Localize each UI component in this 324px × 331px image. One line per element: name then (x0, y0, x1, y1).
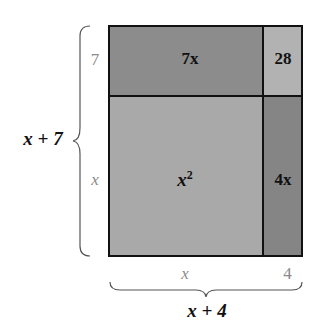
left-total-label: x + 7 (14, 128, 72, 150)
left-segment-x: x (86, 170, 104, 190)
label-28-text: 28 (275, 49, 292, 68)
label-x-squared: x2 (155, 168, 215, 191)
bottom-brace-icon (110, 282, 302, 297)
label-4x-text: 4x (275, 170, 292, 189)
bottom-total-label: x + 4 (175, 300, 239, 322)
label-4x: 4x (264, 170, 302, 190)
bottom-segment-x: x (170, 264, 200, 284)
left-segment-7-text: 7 (91, 50, 100, 69)
left-total-text: x + 7 (23, 128, 62, 149)
label-x-base: x (177, 169, 187, 190)
bottom-segment-x-text: x (181, 264, 189, 283)
label-7x: 7x (160, 49, 220, 69)
left-segment-7: 7 (86, 50, 104, 70)
label-7x-text: 7x (182, 49, 199, 68)
bottom-total-text: x + 4 (187, 300, 226, 321)
label-28: 28 (264, 49, 302, 69)
left-segment-x-text: x (91, 170, 99, 189)
label-exponent: 2 (187, 168, 193, 182)
bottom-segment-4-text: 4 (283, 264, 292, 283)
bottom-segment-4: 4 (275, 264, 300, 284)
